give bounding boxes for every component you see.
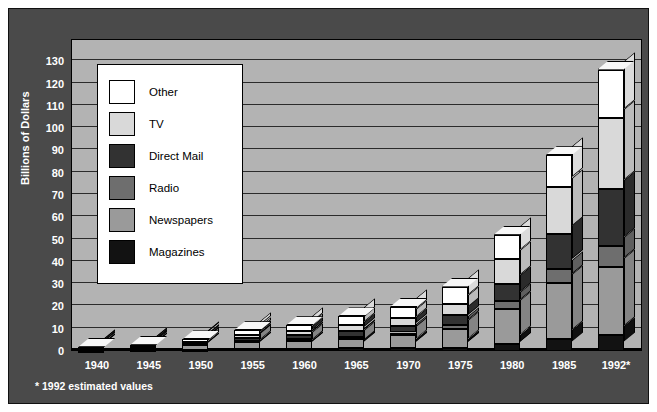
bar-segment-tv bbox=[182, 342, 208, 344]
bar-segment-tv bbox=[494, 259, 520, 284]
bar-segment-radio bbox=[494, 301, 520, 309]
bar-1965 bbox=[338, 39, 375, 351]
bar-segment-tv bbox=[338, 325, 364, 331]
bar-segment-other bbox=[494, 235, 520, 259]
bar-segment-magazines bbox=[78, 351, 104, 353]
bar-1985 bbox=[546, 39, 583, 351]
bar-segment-direct-mail bbox=[234, 338, 260, 341]
bar-segment-other bbox=[546, 155, 572, 186]
x-axis-tick-label: 1985 bbox=[552, 359, 576, 371]
legend-item-direct-mail[interactable]: Direct Mail bbox=[109, 143, 203, 169]
y-axis-tick-label: 0 bbox=[8, 346, 64, 357]
bar-segment-side bbox=[624, 52, 635, 109]
bar-segment-radio bbox=[338, 337, 364, 339]
bar-segment-other bbox=[286, 325, 312, 331]
bar-segment-other bbox=[182, 339, 208, 341]
bar-segment-side bbox=[624, 100, 635, 180]
legend-swatch-icon bbox=[109, 112, 135, 136]
bar-segment-magazines bbox=[442, 348, 468, 351]
bar-segment-direct-mail bbox=[338, 331, 364, 336]
x-axis-tick-label: 1955 bbox=[240, 359, 264, 371]
bar-segment-newspapers bbox=[234, 342, 260, 349]
y-axis-tick-label: 60 bbox=[8, 212, 64, 223]
x-axis-tick-label: 1992* bbox=[602, 359, 631, 371]
bar-segment-radio bbox=[182, 344, 208, 346]
legend-swatch-icon bbox=[109, 144, 135, 168]
bar-segment-radio bbox=[286, 339, 312, 341]
y-axis-tick-label: 10 bbox=[8, 323, 64, 334]
bar-segment-newspapers bbox=[182, 345, 208, 350]
bar-segment-direct-mail bbox=[286, 335, 312, 339]
bar-segment-radio bbox=[234, 341, 260, 343]
bar-1970 bbox=[390, 39, 427, 351]
bar-segment-tv bbox=[234, 335, 260, 338]
bar-segment-radio bbox=[546, 269, 572, 283]
bar-segment-newspapers bbox=[494, 309, 520, 344]
bar-segment-newspapers bbox=[442, 329, 468, 348]
bar-segment-magazines bbox=[390, 348, 416, 351]
y-axis-tick-label: 50 bbox=[8, 234, 64, 245]
bar-segment-direct-mail bbox=[442, 315, 468, 324]
bar-segment-tv bbox=[442, 304, 468, 316]
legend-item-newspapers[interactable]: Newspapers bbox=[109, 207, 213, 233]
bar-1980 bbox=[494, 39, 531, 351]
legend-swatch-icon bbox=[109, 208, 135, 232]
bar-segment-tv bbox=[546, 187, 572, 235]
bar-segment-other bbox=[338, 316, 364, 325]
legend-item-other[interactable]: Other bbox=[109, 79, 178, 105]
chart-footnote: * 1992 estimated values bbox=[35, 380, 153, 392]
y-axis-tick-label: 20 bbox=[8, 301, 64, 312]
legend-item-label: TV bbox=[149, 118, 164, 130]
bar-segment-other bbox=[130, 345, 156, 347]
bar-segment-newspapers bbox=[390, 335, 416, 348]
x-axis-tick-label: 1970 bbox=[396, 359, 420, 371]
bar-1992 bbox=[598, 39, 635, 351]
legend-item-label: Direct Mail bbox=[149, 150, 203, 162]
bar-segment-magazines bbox=[494, 344, 520, 351]
bar-segment-direct-mail bbox=[546, 234, 572, 268]
legend-item-magazines[interactable]: Magazines bbox=[109, 239, 205, 265]
chart-screenshot: 1301201101009080706050403020100 Billions… bbox=[0, 0, 657, 412]
bar-segment-side bbox=[624, 171, 635, 237]
y-axis-title: Billions of Dollars bbox=[19, 91, 31, 185]
bar-segment-direct-mail bbox=[390, 326, 416, 332]
x-axis-tick-label: 1940 bbox=[85, 359, 109, 371]
y-axis-tick-label: 120 bbox=[8, 78, 64, 89]
legend-item-label: Magazines bbox=[149, 246, 205, 258]
y-axis-tick-label: 100 bbox=[8, 123, 64, 134]
bar-segment-newspapers bbox=[286, 341, 312, 349]
x-axis-tick-label: 1975 bbox=[448, 359, 472, 371]
bar-segment-radio bbox=[390, 333, 416, 336]
legend-item-radio[interactable]: Radio bbox=[109, 175, 179, 201]
chart-legend: OtherTVDirect MailRadioNewspapersMagazin… bbox=[97, 64, 243, 284]
legend-item-tv[interactable]: TV bbox=[109, 111, 164, 137]
bar-segment-magazines bbox=[234, 349, 260, 351]
bar-segment-magazines bbox=[546, 339, 572, 351]
bar-segment-newspapers bbox=[546, 283, 572, 339]
y-axis-tick-label: 80 bbox=[8, 167, 64, 178]
y-axis-tick-label: 40 bbox=[8, 256, 64, 267]
bar-top-face bbox=[78, 338, 115, 347]
bar-segment-magazines bbox=[338, 348, 364, 351]
bar-segment-other bbox=[442, 287, 468, 304]
bar-segment-magazines bbox=[130, 350, 156, 352]
chart-frame: 1301201101009080706050403020100 Billions… bbox=[8, 8, 649, 404]
bar-segment-tv bbox=[390, 318, 416, 326]
bar-segment-side bbox=[624, 249, 635, 326]
bar-segment-direct-mail bbox=[598, 189, 624, 246]
bar-segment-radio bbox=[442, 325, 468, 329]
x-axis-tick-label: 1950 bbox=[189, 359, 213, 371]
y-axis-tick-label: 70 bbox=[8, 190, 64, 201]
bar-segment-tv bbox=[286, 331, 312, 335]
bar-segment-tv bbox=[598, 118, 624, 189]
x-axis-tick-label: 1980 bbox=[500, 359, 524, 371]
bar-segment-newspapers bbox=[338, 339, 364, 349]
bar-segment-direct-mail bbox=[494, 284, 520, 301]
legend-swatch-icon bbox=[109, 176, 135, 200]
legend-item-label: Other bbox=[149, 86, 178, 98]
bar-segment-magazines bbox=[598, 335, 624, 351]
legend-item-label: Radio bbox=[149, 182, 179, 194]
bar-1975 bbox=[442, 39, 479, 351]
bar-segment-other bbox=[598, 70, 624, 118]
legend-swatch-icon bbox=[109, 80, 135, 104]
